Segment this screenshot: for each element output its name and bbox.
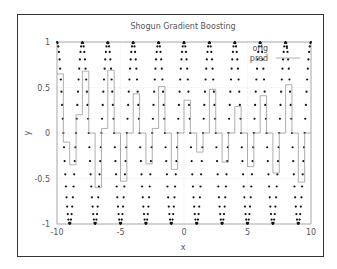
series-pred [57, 70, 311, 187]
axes: -10-5051010.50-0.5-1 [34, 38, 316, 237]
x-tick-label: 0 [181, 228, 186, 237]
x-tick-label: 10 [306, 228, 316, 237]
x-tick-label: -10 [50, 228, 63, 237]
x-tick-label: 5 [245, 228, 250, 237]
x-tick-label: -5 [117, 228, 125, 237]
y-tick-label: 1 [45, 38, 50, 47]
y-tick-label: 0 [45, 129, 50, 138]
chart-title: Shogun Gradient Boosting [130, 22, 235, 31]
y-tick-label: -1 [42, 220, 50, 229]
y-tick-label: -0.5 [34, 175, 50, 184]
chart: Shogun Gradient Boosting -10-5051010.50-… [0, 0, 337, 269]
y-axis-label: y [23, 130, 32, 135]
legend: origpred [250, 44, 300, 63]
y-tick-label: 0.5 [37, 84, 50, 93]
legend-orig-label: orig [253, 44, 268, 53]
x-axis-label: x [181, 243, 186, 252]
legend-pred-label: pred [250, 54, 268, 63]
